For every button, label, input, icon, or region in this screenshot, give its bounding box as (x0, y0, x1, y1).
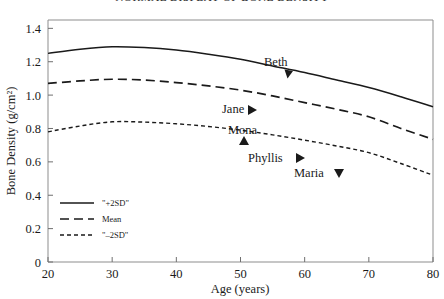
x-tick-label: 60 (298, 267, 311, 281)
y-tick-label: 0.4 (25, 189, 41, 203)
triangle-right-icon (296, 153, 305, 163)
annotation-label-maria: Maria (294, 166, 324, 180)
y-tick-label: 1.2 (25, 55, 41, 69)
chart-svg: 00.20.40.60.81.01.21.4 20304050607080 "+… (0, 0, 444, 299)
patient-annotations: BethJaneMonaPhyllisMaria (222, 55, 344, 180)
y-tick-label: 0.8 (25, 122, 41, 136)
legend-label: "–2SD" (102, 230, 128, 240)
legend-label: Mean (102, 214, 122, 224)
triangle-down-icon (334, 169, 344, 178)
y-axis-ticks: 00.20.40.60.81.01.21.4 (25, 22, 53, 270)
x-tick-label: 50 (234, 267, 247, 281)
annotation-label-phyllis: Phyllis (248, 151, 283, 165)
y-tick-label: 0.6 (25, 155, 41, 169)
x-axis-title: Age (years) (211, 282, 270, 296)
x-tick-label: 70 (363, 267, 376, 281)
annotation-label-mona: Mona (228, 123, 258, 137)
x-axis-ticks: 20304050607080 (42, 257, 440, 281)
x-tick-label: 40 (170, 267, 183, 281)
y-tick-label: 1.4 (25, 22, 41, 36)
x-tick-label: 20 (42, 267, 55, 281)
chart-container: NORMAL DISPLAY OF BONE DENSITY 00.20.40.… (0, 0, 444, 299)
legend-label: "+2SD" (102, 198, 129, 208)
curve-solid (48, 47, 433, 107)
triangle-right-down-icon (285, 70, 294, 79)
plot-frame (48, 20, 433, 262)
annotation-label-jane: Jane (222, 102, 245, 116)
y-tick-label: 0 (35, 256, 41, 270)
chart-legend: "+2SD"Mean"–2SD" (60, 198, 129, 240)
annotation-label-beth: Beth (264, 55, 288, 69)
triangle-right-icon (248, 105, 257, 115)
y-tick-label: 0.2 (25, 222, 41, 236)
x-tick-label: 30 (106, 267, 119, 281)
y-axis-title: Bone Density (g/cm²) (4, 87, 18, 196)
triangle-up-icon (239, 136, 249, 145)
y-tick-label: 1.0 (25, 89, 41, 103)
x-tick-label: 80 (427, 267, 440, 281)
